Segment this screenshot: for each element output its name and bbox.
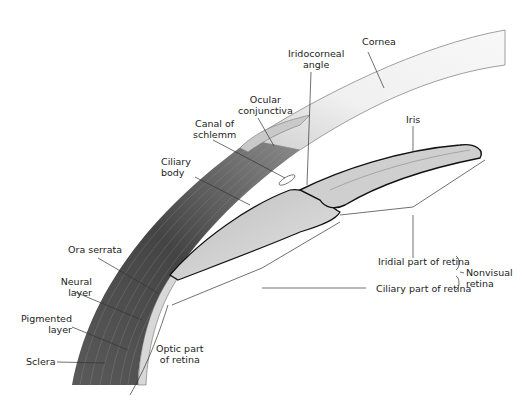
label-ora-serrata: Ora serrata bbox=[68, 244, 122, 255]
label-canal-of-schlemm: Canal of schlemm bbox=[193, 118, 236, 140]
anatomy-illustration bbox=[0, 0, 522, 406]
label-neural-layer: Neural layer bbox=[42, 276, 92, 298]
label-ocular-conjunctiva: Ocular conjunctiva bbox=[238, 94, 293, 116]
label-nonvisual-retina: Nonvisual retina bbox=[466, 267, 513, 289]
canal-of-schlemm-shape bbox=[278, 173, 297, 187]
label-pigmented-layer: Pigmented layer bbox=[16, 313, 72, 335]
label-cornea: Cornea bbox=[362, 36, 396, 47]
label-ciliary-part-of-retina: Ciliary part of retina bbox=[376, 283, 471, 294]
label-optic-part-of-retina: Optic part of retina bbox=[156, 343, 204, 365]
label-ciliary-body: Ciliary body bbox=[161, 156, 191, 178]
label-sclera: Sclera bbox=[26, 356, 55, 367]
eye-anterior-segment-diagram: Cornea Iridocorneal angle Ocular conjunc… bbox=[0, 0, 522, 406]
label-iris: Iris bbox=[406, 114, 420, 125]
iris-shape bbox=[300, 145, 481, 208]
label-iridial-part-of-retina: Iridial part of retina bbox=[378, 256, 470, 267]
label-iridocorneal-angle: Iridocorneal angle bbox=[288, 48, 344, 70]
